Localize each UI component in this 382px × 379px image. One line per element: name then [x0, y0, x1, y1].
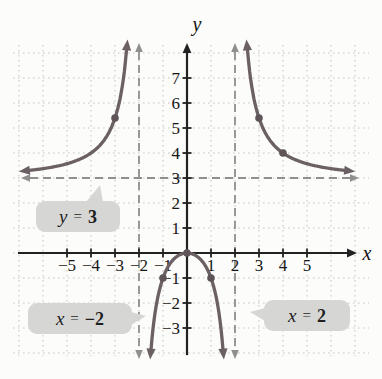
- data-point: [159, 274, 167, 282]
- arrowhead-icon: [135, 350, 143, 359]
- arrowhead-icon: [183, 43, 192, 53]
- callout-variable: x: [288, 306, 296, 325]
- x-tick-label: −2: [130, 256, 148, 275]
- graph-figure: −5−4−3−2−112345−3−2−11234567xy y = 3 x =…: [0, 0, 382, 379]
- curve-arrowhead-icon: [243, 39, 252, 50]
- x-tick-label: 3: [255, 256, 264, 275]
- y-tick-label: 5: [172, 119, 181, 138]
- curve-branch: [30, 50, 127, 170]
- data-point: [207, 274, 215, 282]
- callout-variable: y: [59, 207, 67, 226]
- arrowhead-icon: [21, 174, 30, 182]
- y-tick-label: 4: [172, 144, 181, 163]
- y-tick-label: 7: [172, 69, 181, 88]
- data-point: [111, 114, 119, 122]
- callout-y-equals-3: y = 3: [36, 201, 120, 232]
- callout-tail: [131, 312, 146, 325]
- x-tick-label: 4: [279, 256, 288, 275]
- equals-sign: =: [302, 308, 310, 323]
- y-axis-label: y: [191, 13, 202, 36]
- curve-branch: [248, 50, 345, 170]
- x-tick-label: 2: [231, 256, 240, 275]
- arrowhead-icon: [231, 43, 239, 52]
- x-tick-label: 5: [303, 256, 312, 275]
- y-tick-label: 1: [172, 219, 181, 238]
- curve-arrowhead-icon: [19, 166, 30, 175]
- arrowhead-icon: [135, 43, 143, 52]
- y-tick-label: 6: [172, 94, 181, 113]
- x-tick-label: −5: [58, 256, 76, 275]
- arrowhead-icon: [231, 350, 239, 359]
- y-tick-label: −2: [162, 294, 180, 313]
- data-point: [255, 114, 263, 122]
- x-tick-label: −4: [82, 256, 101, 275]
- curve-arrowhead-icon: [218, 348, 227, 359]
- equals-sign: =: [70, 311, 78, 326]
- y-tick-label: 3: [172, 169, 181, 188]
- curve-arrowhead-icon: [146, 348, 155, 359]
- callout-value: 3: [88, 208, 97, 226]
- callout-variable: x: [56, 309, 64, 328]
- callout-value: −2: [85, 310, 104, 328]
- callout-x-equals-2: x = 2: [264, 300, 350, 331]
- data-point: [183, 249, 191, 257]
- x-tick-label: −3: [106, 256, 124, 275]
- x-axis-label: x: [362, 242, 372, 264]
- callout-tail: [250, 308, 265, 321]
- y-tick-label: −3: [162, 319, 180, 338]
- callout-x-equals-neg-2: x = −2: [28, 303, 132, 334]
- y-tick-label: 2: [172, 194, 181, 213]
- equals-sign: =: [73, 209, 81, 224]
- curve-arrowhead-icon: [344, 166, 355, 175]
- data-point: [279, 149, 287, 157]
- callout-value: 2: [317, 307, 326, 325]
- callout-tail: [86, 185, 103, 202]
- curve-arrowhead-icon: [122, 39, 131, 50]
